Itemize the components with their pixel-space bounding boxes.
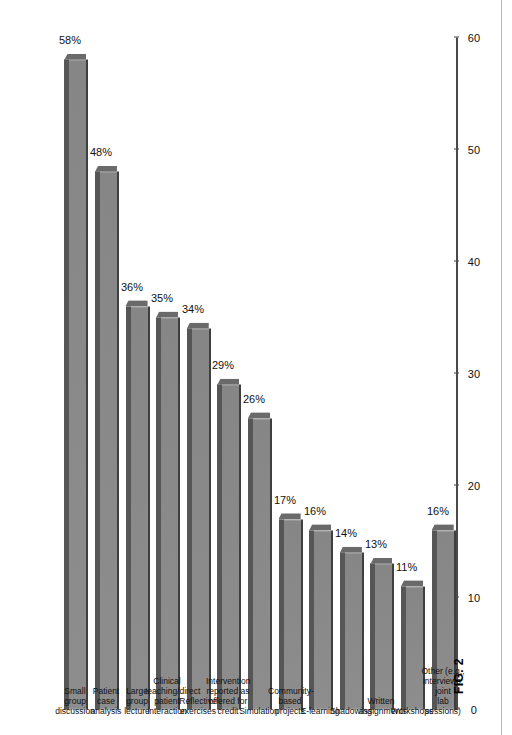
bar-3d-body	[95, 171, 117, 709]
bar-top-edge	[370, 563, 375, 709]
bar-3d-body	[340, 552, 362, 709]
bar	[370, 563, 392, 709]
bar-value-label: 34%	[182, 302, 210, 314]
bar-value-label: 16%	[427, 504, 455, 516]
bar-base-shadow	[117, 171, 119, 709]
axis-tick-label: 50	[464, 143, 484, 155]
bar-end-cap	[187, 322, 209, 328]
axis-tick-label: 30	[464, 367, 484, 379]
bar-value-label: 26%	[243, 392, 271, 404]
bar-end-cap	[126, 300, 148, 306]
figure-page: 0102030405060 58%48%36%35%34%29%26%17%16…	[0, 0, 512, 735]
bar-value-label: 17%	[274, 493, 302, 505]
bar-end-cap	[432, 524, 454, 530]
bar-end-cap	[217, 378, 239, 384]
bar-top-edge	[95, 171, 100, 709]
bar	[156, 317, 178, 709]
bar-end-cap	[401, 580, 423, 586]
bar-base-shadow	[301, 519, 303, 709]
bar-value-label: 16%	[304, 504, 332, 516]
bar-top-edge	[309, 530, 314, 709]
bar-3d-body	[401, 586, 423, 709]
bar-base-shadow	[362, 552, 364, 709]
axis-tick	[454, 260, 459, 261]
bar-top-edge	[248, 418, 253, 709]
bar-value-label: 11%	[396, 560, 424, 572]
axis-tick-label: 0	[464, 703, 484, 715]
bar-3d-body	[64, 59, 86, 709]
bar	[248, 418, 270, 709]
axis-tick-label: 40	[464, 255, 484, 267]
bar-end-cap	[279, 513, 301, 519]
bar-value-label: 36%	[121, 280, 149, 292]
bar-end-cap	[340, 546, 362, 552]
axis-tick-label: 60	[464, 31, 484, 43]
bar-top-edge	[401, 586, 406, 709]
bar-3d-body	[156, 317, 178, 709]
axis-tick	[454, 484, 459, 485]
bar-end-cap	[156, 311, 178, 317]
bar-base-shadow	[86, 59, 88, 709]
bar-end-cap	[370, 557, 392, 563]
bar	[64, 59, 86, 709]
axis-tick-label: 20	[464, 479, 484, 491]
bar	[187, 328, 209, 709]
bar-3d-body	[248, 418, 270, 709]
bar-base-shadow	[270, 418, 272, 709]
plot-area: 0102030405060 58%48%36%35%34%29%26%17%16…	[60, 37, 458, 709]
figure-caption: FIG. 2	[452, 658, 466, 694]
axis-tick-label: 10	[464, 591, 484, 603]
bar-base-shadow	[178, 317, 180, 709]
axis-tick	[454, 36, 459, 37]
bar-base-shadow	[239, 384, 241, 709]
bar-value-label: 58%	[59, 33, 87, 45]
bar-top-edge	[64, 59, 69, 709]
bar-base-shadow	[392, 563, 394, 709]
bar-base-shadow	[331, 530, 333, 709]
bar-base-shadow	[148, 306, 150, 709]
chart-stage: 0102030405060 58%48%36%35%34%29%26%17%16…	[0, 0, 512, 735]
bar-top-edge	[187, 328, 192, 709]
bar-end-cap	[64, 53, 86, 59]
bar-3d-body	[309, 530, 331, 709]
bar	[217, 384, 239, 709]
bar-3d-body	[187, 328, 209, 709]
bar-value-label: 13%	[365, 537, 393, 549]
bar-3d-body	[217, 384, 239, 709]
bar	[126, 306, 148, 709]
bar-value-label: 48%	[90, 145, 118, 157]
bar-top-edge	[156, 317, 161, 709]
bar	[401, 586, 423, 709]
bar-3d-body	[370, 563, 392, 709]
axis-tick	[454, 372, 459, 373]
bar-3d-body	[279, 519, 301, 709]
bar-top-edge	[340, 552, 345, 709]
bar-top-edge	[217, 384, 222, 709]
bar-end-cap	[248, 412, 270, 418]
bar-base-shadow	[209, 328, 211, 709]
bar	[279, 519, 301, 709]
bar-top-edge	[279, 519, 284, 709]
bar	[340, 552, 362, 709]
bar	[95, 171, 117, 709]
bar-end-cap	[309, 524, 331, 530]
bar-top-edge	[126, 306, 131, 709]
bar-value-label: 29%	[212, 358, 240, 370]
bar-end-cap	[95, 165, 117, 171]
bar	[309, 530, 331, 709]
bar-value-label: 35%	[151, 291, 179, 303]
bar-value-label: 14%	[335, 526, 363, 538]
bar-3d-body	[126, 306, 148, 709]
axis-tick	[454, 148, 459, 149]
